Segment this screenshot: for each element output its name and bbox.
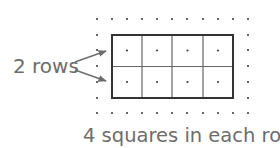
rectangle-grid xyxy=(112,35,233,98)
caption: 4 squares in each row xyxy=(83,124,280,147)
rows-label: 2 rows xyxy=(13,54,79,78)
arrow-icon xyxy=(75,70,106,81)
array-diagram: 2 rows 4 squares in each row xyxy=(0,0,280,148)
row-arrows xyxy=(75,51,106,81)
arrow-icon xyxy=(75,51,106,62)
